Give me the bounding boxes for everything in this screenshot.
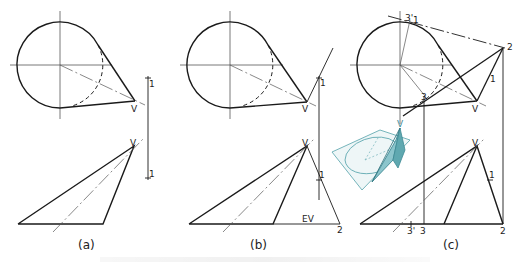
vertex-label: V [130,138,137,148]
true-length-label: EV [302,214,315,224]
vertex-label: V [302,104,309,114]
faint-bleedthrough [100,257,430,262]
point-3prime-label: 3' [407,226,415,236]
vertex-label: V [302,138,309,148]
point-1-label: 1 [320,78,326,88]
panel-caption: (a) [78,238,95,252]
descriptive-geometry-figure: V 1 1 V (a) V 1 1 V EV 2 (b) [0,0,522,268]
panel-a: V 1 1 V (a) [10,11,155,252]
point-1-label: 1 [413,15,419,25]
pictorial-inset: V [332,119,410,190]
point-2-label: 2 [507,42,513,52]
panel-c: 3' 1 2 1 3 V 1 V 3' 3 2 (c) [350,11,513,252]
point-1-label: 1 [490,74,496,84]
vertex-label: V [472,138,479,148]
inset-vertex-label: V [397,119,404,129]
vertex-label: V [131,104,138,114]
vertex-label: V [472,104,479,114]
point-2-label: 2 [500,226,506,236]
point-1-label: 1 [149,79,155,89]
point-3-label: 3 [420,226,426,236]
panel-b: V 1 1 V EV 2 (b) [180,11,343,252]
panel-caption: (c) [443,238,459,252]
point-3prime-label: 3' [405,13,413,23]
point-1-label: 1 [149,169,155,179]
point-1-label: 1 [319,170,325,180]
point-1-label: 1 [489,170,495,180]
point-2-label: 2 [337,225,343,235]
panel-caption: (b) [250,238,267,252]
